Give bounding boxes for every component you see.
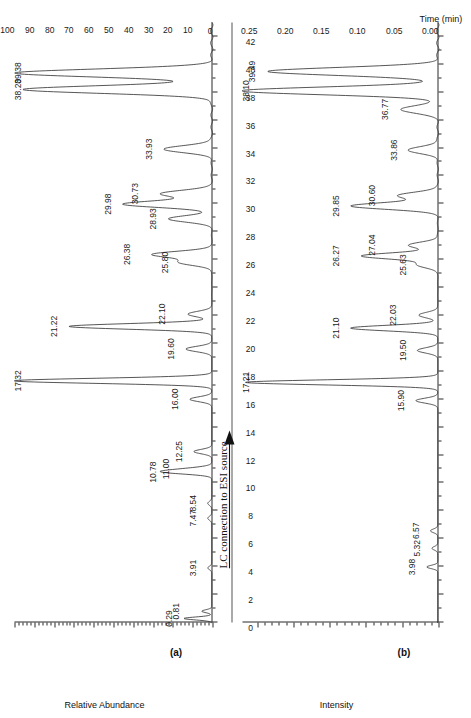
x-tick-major: [438, 370, 443, 371]
x-tick-major: [212, 314, 217, 315]
x-tick-minor: [438, 272, 441, 273]
y-tick-minor: [286, 622, 287, 625]
y-tick-major: [365, 622, 366, 627]
peak-label: 26.38: [121, 243, 131, 264]
x-tick-minor: [212, 328, 215, 329]
y-tick-label: 40: [123, 25, 132, 35]
x-tick-minor: [438, 523, 441, 524]
y-tick-minor: [125, 622, 126, 625]
y-tick-label: 0.10: [349, 25, 366, 35]
y-tick-minor: [315, 622, 316, 625]
peak-label: 25.63: [397, 254, 407, 275]
x-tick-minor: [438, 77, 441, 78]
y-tick-label: 50: [104, 25, 113, 35]
panel-b: 0.000.050.100.150.200.250246810121416182…: [236, 0, 471, 718]
x-tick-minor: [438, 468, 441, 469]
x-tick-minor: [212, 133, 215, 134]
x-tick-minor: [212, 216, 215, 217]
peak-label: 39.49: [246, 60, 256, 81]
y-tick-major: [438, 622, 439, 627]
y-tick-minor: [97, 622, 98, 625]
peak-label: 17.21: [240, 371, 250, 392]
x-tick-label: 10: [238, 482, 262, 492]
peak-label: 12.25: [173, 440, 183, 461]
y-tick-minor: [66, 622, 67, 625]
y-tick-minor: [424, 622, 425, 625]
y-tick-minor: [117, 622, 118, 625]
peak-label: 3.98: [406, 558, 416, 575]
x-tick-minor: [212, 384, 215, 385]
x-tick-major: [212, 342, 217, 343]
y-tick-minor: [137, 622, 138, 625]
peak-label: 38.10: [240, 80, 250, 101]
y-tick-minor: [409, 622, 410, 625]
y-tick-minor: [81, 622, 82, 625]
x-tick-major: [438, 342, 443, 343]
x-tick-major: [438, 91, 443, 92]
peak-label: 19.60: [165, 338, 175, 359]
x-tick-label: 30: [238, 203, 262, 213]
x-tick-label: 34: [238, 148, 262, 158]
y-tick-minor: [145, 622, 146, 625]
x-tick-minor: [212, 49, 215, 50]
y-tick-label: 0.20: [276, 25, 293, 35]
x-tick-label: 12: [238, 455, 262, 465]
arrow-right-icon: [222, 428, 236, 568]
x-tick-minor: [438, 133, 441, 134]
x-tick-minor: [438, 300, 441, 301]
panel-a-y-axis-title: Relative Abundance: [44, 699, 164, 709]
y-tick-minor: [58, 622, 59, 625]
y-tick-minor: [271, 622, 272, 625]
y-tick-minor: [85, 622, 86, 625]
y-tick-label: 0.05: [385, 25, 402, 35]
x-tick-major: [438, 35, 443, 36]
peak-label: 15.90: [395, 390, 405, 411]
peak-label: 22.03: [387, 304, 397, 325]
y-tick-label: 0.15: [313, 25, 330, 35]
y-tick-label: 100: [0, 25, 14, 35]
y-tick-minor: [373, 622, 374, 625]
peak-label: 29.98: [102, 193, 112, 214]
y-tick-label: 0.25: [240, 25, 257, 35]
x-tick-minor: [212, 188, 215, 189]
x-tick-major: [212, 593, 217, 594]
peak-label: 0.81: [170, 602, 180, 619]
y-tick-minor: [89, 622, 90, 625]
x-tick-minor: [438, 328, 441, 329]
x-tick-minor: [212, 412, 215, 413]
y-tick-label: 80: [44, 25, 53, 35]
x-tick-major: [212, 370, 217, 371]
peak-label: 27.04: [366, 234, 376, 255]
y-tick-major: [293, 622, 294, 627]
x-tick-minor: [212, 105, 215, 106]
y-tick-label: 70: [64, 25, 73, 35]
panel-a: 01020304050607080901000.290.813.917.478.…: [0, 0, 236, 718]
x-tick-major: [438, 593, 443, 594]
x-tick-major: [212, 35, 217, 36]
peak-label: 25.80: [159, 251, 169, 272]
x-tick-minor: [438, 440, 441, 441]
x-tick-major: [438, 119, 443, 120]
y-tick-minor: [278, 622, 279, 625]
panel-b-y-axis-title: Intensity: [276, 699, 396, 709]
x-tick-minor: [212, 495, 215, 496]
y-tick-major: [54, 622, 55, 627]
x-tick-major: [438, 230, 443, 231]
x-tick-major: [438, 398, 443, 399]
peak-label: 16.00: [169, 388, 179, 409]
y-tick-minor: [62, 622, 63, 625]
x-tick-minor: [438, 216, 441, 217]
peak-label: 7.47: [187, 510, 197, 527]
chromatogram-figure: 01020304050607080901000.290.813.917.478.…: [0, 0, 471, 718]
x-tick-major: [438, 202, 443, 203]
y-tick-major: [329, 622, 330, 627]
x-tick-major: [212, 258, 217, 259]
x-tick-minor: [438, 607, 441, 608]
x-tick-label: 0: [238, 622, 262, 632]
x-tick-label: 8: [238, 510, 262, 520]
y-tick-minor: [46, 622, 47, 625]
panel-a-letter: (a): [169, 646, 181, 657]
peak-label: 11.00: [160, 458, 170, 479]
x-tick-label: 2: [238, 594, 262, 604]
y-tick-major: [14, 622, 15, 627]
